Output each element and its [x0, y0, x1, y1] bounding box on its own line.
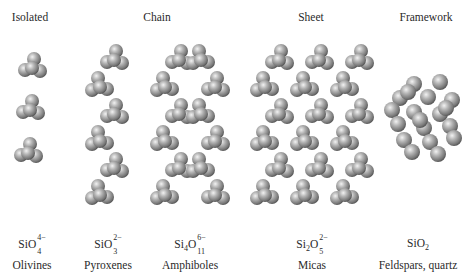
oxygen-sphere — [272, 53, 286, 67]
oxygen-sphere — [446, 130, 462, 146]
formula-amphiboles: Si4O6−11 — [174, 237, 205, 253]
framework-cluster — [384, 74, 462, 162]
oxygen-sphere — [404, 144, 420, 160]
oxygen-sphere — [21, 146, 35, 160]
oxygen-sphere — [208, 134, 222, 148]
oxygen-sphere — [172, 53, 186, 67]
mineral-micas: Micas — [298, 259, 326, 271]
formula-pyroxenes: SiO2−3 — [94, 237, 121, 253]
oxygen-sphere — [430, 146, 446, 162]
oxygen-sphere — [272, 161, 286, 175]
pyroxene-single-chain — [85, 44, 129, 205]
oxygen-sphere — [438, 100, 454, 116]
oxygen-sphere — [352, 161, 366, 175]
oxygen-sphere — [158, 188, 172, 202]
category-title-chain: Chain — [143, 11, 170, 23]
mineral-olivines: Olivines — [13, 259, 52, 271]
formula-micas: Si2O2−5 — [296, 237, 327, 253]
oxygen-sphere — [208, 188, 222, 202]
oxygen-sphere — [298, 80, 312, 94]
oxygen-sphere — [93, 134, 107, 148]
category-title-sheet: Sheet — [298, 11, 324, 23]
oxygen-sphere — [107, 161, 121, 175]
amphibole-double-chain — [150, 44, 230, 205]
oxygen-sphere — [194, 161, 208, 175]
oxygen-sphere — [194, 53, 208, 67]
oxygen-sphere — [258, 188, 272, 202]
oxygen-sphere — [432, 74, 448, 90]
oxygen-sphere — [93, 188, 107, 202]
oxygen-sphere — [25, 61, 39, 75]
formula-framework: SiO2 — [407, 237, 429, 252]
category-title-isolated: Isolated — [12, 11, 48, 23]
oxygen-sphere — [352, 53, 366, 67]
mineral-amphiboles: Amphiboles — [162, 259, 218, 271]
oxygen-sphere — [412, 112, 428, 128]
oxygen-sphere — [312, 53, 326, 67]
oxygen-sphere — [107, 53, 121, 67]
mineral-pyroxenes: Pyroxenes — [84, 259, 132, 271]
oxygen-sphere — [298, 188, 312, 202]
silicate-structures-art — [0, 0, 475, 278]
oxygen-sphere — [258, 80, 272, 94]
oxygen-sphere — [312, 161, 326, 175]
oxygen-sphere — [272, 107, 286, 121]
category-title-framework: Framework — [399, 11, 452, 23]
oxygen-sphere — [384, 102, 400, 118]
mineral-framework: Feldspars, quartz — [379, 259, 458, 271]
oxygen-sphere — [93, 80, 107, 94]
oxygen-sphere — [400, 84, 416, 100]
oxygen-sphere — [338, 188, 352, 202]
oxygen-sphere — [23, 103, 37, 117]
oxygen-sphere — [298, 134, 312, 148]
oxygen-sphere — [258, 134, 272, 148]
oxygen-sphere — [420, 89, 436, 105]
mica-sheet — [250, 44, 374, 205]
oxygen-sphere — [312, 107, 326, 121]
oxygen-sphere — [338, 80, 352, 94]
oxygen-sphere — [172, 161, 186, 175]
oxygen-sphere — [352, 107, 366, 121]
oxygen-sphere — [107, 107, 121, 121]
oxygen-sphere — [158, 134, 172, 148]
oxygen-sphere — [208, 80, 222, 94]
oxygen-sphere — [172, 107, 186, 121]
isolated-tetrahedra — [14, 52, 47, 163]
oxygen-sphere — [194, 107, 208, 121]
formula-olivines: SiO4−4 — [18, 237, 45, 253]
oxygen-sphere — [338, 134, 352, 148]
oxygen-sphere — [390, 116, 406, 132]
oxygen-sphere — [158, 80, 172, 94]
